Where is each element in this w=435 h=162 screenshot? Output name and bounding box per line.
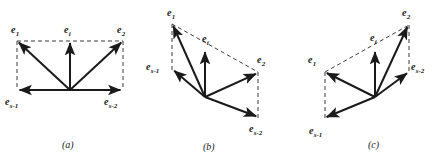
vector-e1 xyxy=(173,26,205,97)
vector-e1 xyxy=(19,43,70,90)
label-es1: es-1 xyxy=(146,62,159,72)
vector-e2 xyxy=(375,27,407,97)
vector-arrows xyxy=(327,27,408,117)
label-es2: es-2 xyxy=(411,62,424,72)
vector-e2 xyxy=(70,43,121,90)
label-es1: es-1 xyxy=(309,126,322,136)
label-ei: ei xyxy=(202,34,208,44)
vector-es1 xyxy=(174,71,205,97)
vector-e2 xyxy=(205,74,256,97)
vector-es1 xyxy=(327,97,375,117)
vector-arrows xyxy=(173,26,256,116)
label-es1: es-1 xyxy=(5,97,18,107)
label-e2: e2 xyxy=(117,25,125,35)
caption-a: (a) xyxy=(62,140,74,150)
panel-c-diagram xyxy=(290,0,435,162)
caption-b: (b) xyxy=(203,142,215,152)
label-ei: ei xyxy=(370,33,376,43)
vector-es2 xyxy=(205,97,256,116)
label-e1: e1 xyxy=(308,55,316,65)
label-es2: es-2 xyxy=(249,124,262,134)
panel-b-diagram xyxy=(145,0,290,162)
caption-c: (c) xyxy=(368,140,379,150)
figure-root: e1 ei e2 es-1 es-2 (a) xyxy=(0,0,435,162)
label-ei: ei xyxy=(64,25,70,35)
vector-e1 xyxy=(327,73,375,97)
label-e1: e1 xyxy=(11,25,19,35)
dashed-frame xyxy=(172,24,258,118)
label-e2: e2 xyxy=(257,55,265,65)
dashed-frame xyxy=(325,25,409,119)
panel-b: e1 ei e2 es-1 es-2 (b) xyxy=(145,0,290,162)
label-es2: es-2 xyxy=(104,97,117,107)
panel-c: e1 ei e2 es-1 es-2 (c) xyxy=(290,0,435,162)
label-e1: e1 xyxy=(167,8,175,18)
panel-a: e1 ei e2 es-1 es-2 (a) xyxy=(0,0,145,162)
vector-arrows xyxy=(19,43,121,90)
label-e2: e2 xyxy=(402,8,410,18)
